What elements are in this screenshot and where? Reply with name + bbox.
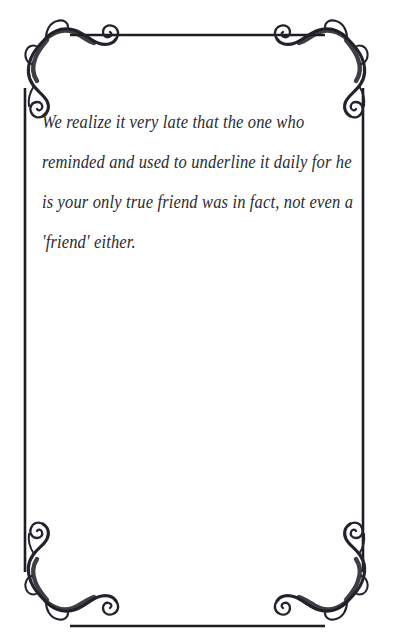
cut-off-header-strip: ­ ­ ­ ­ ­ ­ ­ ­ ­ ­ — [0, 0, 393, 9]
quote-text-block: We realize it very late that the one who… — [42, 104, 348, 264]
ornament-bottom-right — [275, 523, 368, 620]
quote-line: We realize it very late that the one who — [42, 101, 348, 144]
cut-off-header-text: ­ ­ ­ ­ ­ ­ ­ ­ ­ ­ — [359, 0, 385, 4]
quote-line: reminded and used to underline it daily … — [42, 141, 348, 184]
quote-card-page: ­ ­ ­ ­ ­ ­ ­ ­ ­ ­ — [0, 0, 393, 640]
quote-line: is your only true friend was in fact, no… — [42, 181, 348, 224]
decorative-frame — [0, 0, 393, 640]
quote-line: 'friend' either. — [42, 221, 348, 264]
ornament-bottom-left — [25, 523, 118, 620]
